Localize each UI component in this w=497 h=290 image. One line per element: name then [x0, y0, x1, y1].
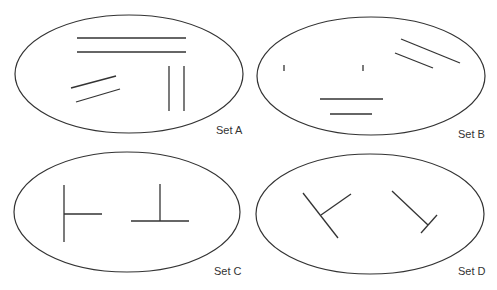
- set-d-lines: [303, 191, 437, 238]
- set-c-group: Set C: [14, 152, 242, 277]
- line-segment: [321, 194, 351, 215]
- line-segment: [395, 53, 433, 68]
- set-d-ellipse: [256, 154, 484, 274]
- set-a-label: Set A: [216, 124, 243, 136]
- line-segment: [76, 89, 120, 102]
- set-a-group: Set A: [15, 15, 243, 136]
- set-c-label: Set C: [214, 265, 242, 277]
- set-b-lines: [284, 39, 460, 114]
- set-b-ellipse: [257, 17, 485, 135]
- set-c-ellipse: [14, 152, 240, 272]
- set-a-lines: [71, 38, 186, 111]
- set-b-label: Set B: [458, 128, 485, 140]
- set-a-ellipse: [15, 15, 243, 133]
- set-d-label: Set D: [458, 265, 486, 277]
- sets-diagram: Set A Set B Set C Set D: [0, 0, 497, 290]
- set-c-lines: [64, 184, 189, 242]
- line-segment: [392, 191, 428, 225]
- line-segment: [71, 76, 116, 88]
- line-segment: [303, 193, 338, 238]
- set-d-group: Set D: [256, 154, 486, 277]
- set-b-group: Set B: [257, 17, 485, 140]
- line-segment: [421, 215, 437, 233]
